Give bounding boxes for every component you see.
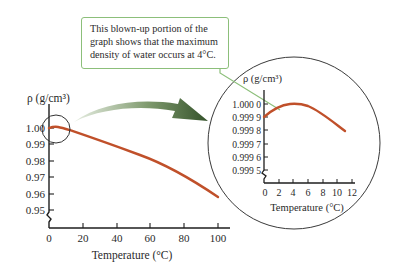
inset-y-axis-label: ρ (g/cm³) xyxy=(243,73,283,85)
main-x-tick-label: 40 xyxy=(112,232,124,244)
inset-y-tick-label: 0.999 8 xyxy=(232,125,261,136)
main-x-axis-label: Temperature (°C) xyxy=(92,249,173,262)
main-x-tick-labels: 0 20 40 60 80 100 xyxy=(46,232,227,244)
main-y-axis xyxy=(47,104,51,228)
main-y-ticks xyxy=(49,128,54,210)
callout-line: density of water occurs at 4°C. xyxy=(90,48,222,61)
magnify-arrow xyxy=(74,98,208,122)
inset-y-tick-label: 0.999 6 xyxy=(232,152,261,163)
main-density-curve xyxy=(49,127,218,197)
main-x-tick-label: 80 xyxy=(179,232,191,244)
inset-y-tick-label: 0.999 9 xyxy=(232,112,261,123)
inset-x-tick-label: 6 xyxy=(306,187,311,198)
main-y-tick-label: 0.97 xyxy=(26,171,46,183)
main-y-axis-label: ρ (g/cm³) xyxy=(27,92,70,105)
inset-chart: 1.000 0 0.999 9 0.999 8 0.999 7 0.999 6 … xyxy=(208,57,380,229)
main-x-tick-label: 60 xyxy=(145,232,157,244)
main-y-tick-label: 0.96 xyxy=(26,188,46,200)
inset-x-axis-label: Temperature (°C) xyxy=(270,202,344,214)
callout-line: This blown-up portion of the xyxy=(90,22,222,35)
main-x-tick-label: 100 xyxy=(210,232,227,244)
inset-y-tick-label: 0.999 7 xyxy=(232,139,261,150)
inset-x-tick-label: 12 xyxy=(347,187,357,198)
main-x-tick-label: 20 xyxy=(78,232,90,244)
inset-x-tick-label: 2 xyxy=(277,187,282,198)
main-y-tick-label: 0.95 xyxy=(26,204,46,216)
main-y-tick-labels: 1.00 0.99 0.98 0.97 0.96 0.95 xyxy=(26,122,46,216)
arrow-body xyxy=(74,98,208,122)
inset-y-tick-label: 1.000 0 xyxy=(232,99,261,110)
inset-y-tick-label: 0.999 5 xyxy=(232,165,261,176)
inset-x-tick-label: 4 xyxy=(291,187,296,198)
inset-x-tick-label: 8 xyxy=(321,187,326,198)
inset-x-tick-label: 0 xyxy=(263,187,268,198)
callout-line: graph shows that the maximum xyxy=(90,35,222,48)
inset-x-tick-label: 10 xyxy=(332,187,342,198)
main-x-ticks xyxy=(83,223,218,228)
main-x-tick-label: 0 xyxy=(46,232,52,244)
annotation-callout: This blown-up portion of the graph shows… xyxy=(81,17,229,69)
density-figure: 1.00 0.99 0.98 0.97 0.96 0.95 0 20 40 60 xyxy=(0,0,400,273)
main-y-tick-label: 0.99 xyxy=(26,138,46,150)
main-y-tick-label: 0.98 xyxy=(26,155,46,167)
